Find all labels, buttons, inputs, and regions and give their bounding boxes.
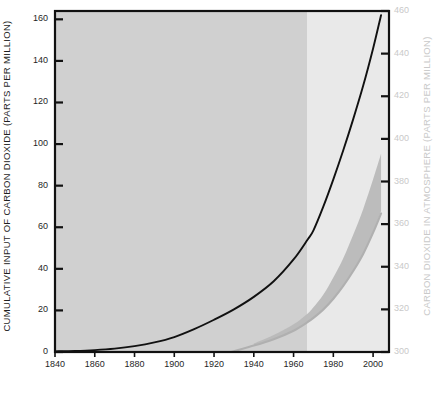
right-tick-label-320: 320 — [394, 303, 420, 313]
left-tick-label-20: 20 — [22, 304, 48, 314]
left-tick-label-120: 120 — [22, 96, 48, 106]
right-tick-label-420: 420 — [394, 90, 420, 100]
right-axis-title: CARBON DIOXIDE IN ATMOSPHERE (PARTS PER … — [420, 0, 434, 352]
right-tick-label-300: 300 — [394, 346, 420, 356]
left-tick-label-60: 60 — [22, 221, 48, 231]
left-tick-label-40: 40 — [22, 263, 48, 273]
x-tick-label-1940: 1940 — [236, 359, 272, 369]
x-tick-label-1860: 1860 — [77, 359, 113, 369]
left-tick-label-80: 80 — [22, 180, 48, 190]
x-tick-label-1840: 1840 — [37, 359, 73, 369]
x-tick-label-1920: 1920 — [196, 359, 232, 369]
co2-chart-svg — [0, 0, 438, 400]
right-tick-label-440: 440 — [394, 48, 420, 58]
x-tick-label-1980: 1980 — [315, 359, 351, 369]
right-tick-label-460: 460 — [394, 5, 420, 15]
left-tick-label-0: 0 — [22, 346, 48, 356]
chart-figure: CUMULATIVE INPUT OF CARBON DIOXIDE (PART… — [0, 0, 438, 400]
left-axis-title: CUMULATIVE INPUT OF CARBON DIOXIDE (PART… — [0, 0, 14, 352]
right-tick-label-400: 400 — [394, 133, 420, 143]
right-tick-label-360: 360 — [394, 218, 420, 228]
x-tick-label-1900: 1900 — [156, 359, 192, 369]
shaded-region-historical — [55, 11, 307, 352]
x-tick-label-1960: 1960 — [276, 359, 312, 369]
x-tick-label-1880: 1880 — [117, 359, 153, 369]
right-tick-label-380: 380 — [394, 176, 420, 186]
right-tick-label-340: 340 — [394, 261, 420, 271]
left-tick-label-100: 100 — [22, 138, 48, 148]
x-tick-label-2000: 2000 — [355, 359, 391, 369]
left-tick-label-160: 160 — [22, 13, 48, 23]
left-tick-label-140: 140 — [22, 55, 48, 65]
